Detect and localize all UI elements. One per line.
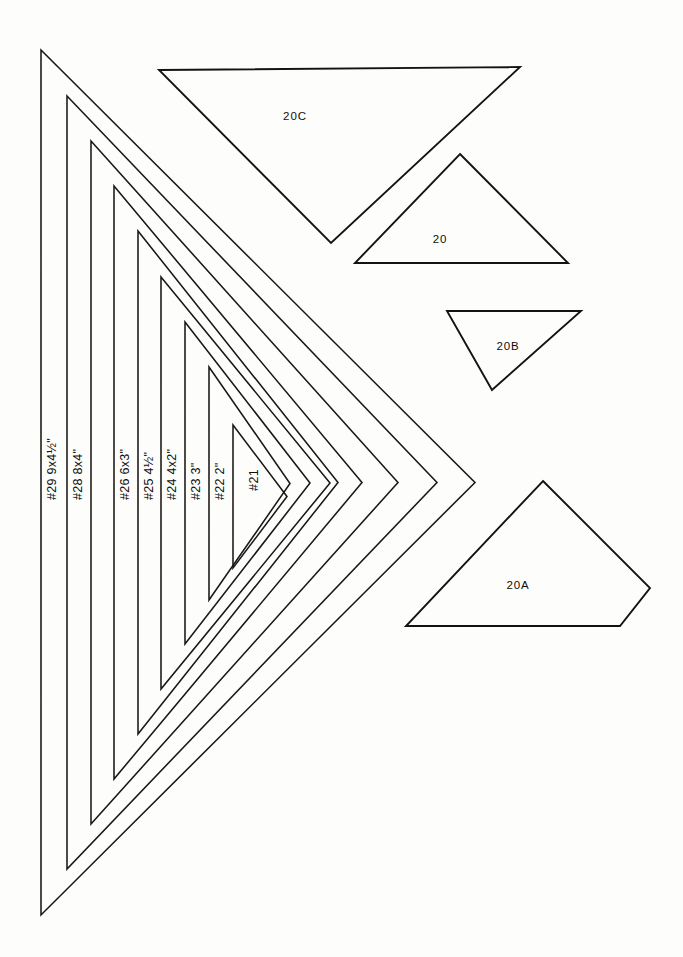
piece-shape-20c[interactable] [159, 67, 520, 243]
strip-label-25: #25 4½" [142, 452, 156, 500]
piece-label-20: 20 [433, 233, 448, 245]
piece-shape-20a[interactable] [406, 481, 650, 626]
strip-label-26: #26 6x3" [118, 449, 132, 500]
piece-label-20a: 20A [506, 579, 529, 591]
piece-shape-20[interactable] [355, 154, 568, 263]
strip-label-21: #21 [247, 469, 261, 491]
strip-label-group: #29 9x4½" #28 8x4" #26 6x3" #25 4½" #24 … [45, 438, 261, 500]
nested-triangle-27[interactable] [91, 141, 398, 824]
strip-label-29: #29 9x4½" [45, 438, 59, 500]
piece-label-20c: 20C [283, 110, 307, 122]
nested-triangle-24[interactable] [161, 277, 330, 689]
pattern-sheet-page: #29 9x4½" #28 8x4" #26 6x3" #25 4½" #24 … [0, 0, 683, 957]
strip-label-23: #23 3" [189, 462, 203, 500]
strip-label-28: #28 8x4" [71, 449, 85, 500]
piece-label-20b: 20B [496, 340, 519, 352]
strip-label-24: #24 4x2" [165, 449, 179, 500]
pattern-drawing-canvas: #29 9x4½" #28 8x4" #26 6x3" #25 4½" #24 … [0, 0, 683, 957]
strip-label-22: #22 2" [213, 462, 227, 500]
